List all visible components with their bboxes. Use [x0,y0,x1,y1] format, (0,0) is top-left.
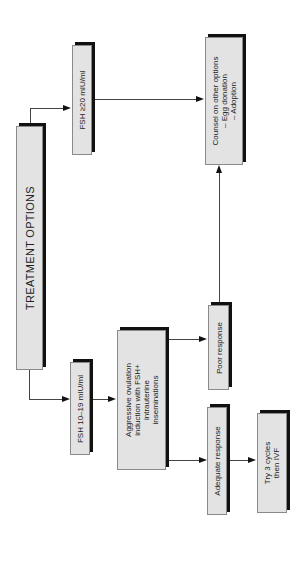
connector-title-to-fsh-high-v [30,108,31,123]
counsel-line-1: Counsel on other options [211,57,220,146]
aggressive-line-3: intrauterine [142,363,151,437]
connector-title-to-fsh-mid-v [29,370,30,399]
aggressive-line-1: Aggressive ovulation [124,363,133,437]
connector-fsh-mid-to-aggressive [90,399,109,400]
try-line-1: Try 3 cycles [263,442,272,484]
treatment-options-box: TREATMENT OPTIONS [16,126,43,370]
counsel-line-3: – Adoption [229,57,238,146]
try-cycles-box: Try 3 cycles then IVF [257,413,287,513]
arrow-icon [199,336,207,342]
poor-response-box: Poor response [208,305,229,390]
connector-fsh-high-to-counsel [92,99,197,100]
counsel-label: Counsel on other options – Egg donation … [211,57,238,146]
adequate-response-box: Adequate response [207,407,227,515]
fsh-mid-box: FSH 10–19 mIU/ml [70,362,90,455]
fsh-high-box: FSH ≥20 mIU/ml [72,45,92,155]
arrow-icon [63,105,71,111]
arrow-icon [199,457,207,463]
aggressive-induction-label: Aggressive ovulation induction with FSH+… [124,363,160,437]
counsel-box: Counsel on other options – Egg donation … [205,37,243,165]
arrow-icon [108,396,116,402]
arrow-icon [216,165,222,173]
connector-adequate-to-try [227,460,249,461]
connector-title-to-fsh-high-h [30,108,64,109]
aggressive-induction-box: Aggressive ovulation induction with FSH+… [117,330,166,470]
try-line-2: then IVF [272,442,281,484]
fsh-high-label: FSH ≥20 mIU/ml [78,70,87,129]
counsel-line-2: – Egg donation [220,57,229,146]
connector-title-to-fsh-mid-h [29,399,63,400]
adequate-response-label: Adequate response [213,426,222,495]
arrow-icon [248,457,256,463]
poor-response-label: Poor response [214,321,223,373]
try-cycles-label: Try 3 cycles then IVF [263,442,281,484]
connector-aggressive-to-adequate [166,460,200,461]
connector-poor-to-counsel [219,172,220,305]
aggressive-line-2: induction with FSH+ [133,363,142,437]
connector-aggressive-to-poor [166,339,200,340]
aggressive-line-4: inseminations [151,363,160,437]
arrow-icon [62,396,70,402]
arrow-icon [196,96,204,102]
fsh-mid-label: FSH 10–19 mIU/ml [76,374,85,442]
treatment-options-label: TREATMENT OPTIONS [25,186,34,310]
